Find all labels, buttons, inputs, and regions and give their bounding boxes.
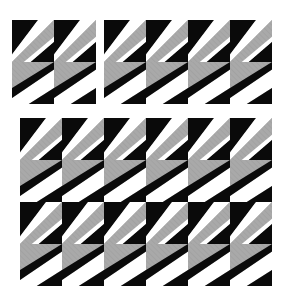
tile-variant-a bbox=[12, 20, 54, 62]
tile-variant-b bbox=[20, 160, 62, 202]
tile-variant-b bbox=[146, 244, 188, 286]
tile-variant-a bbox=[54, 20, 96, 62]
tile-variant-b bbox=[188, 62, 230, 104]
tile-variant-b bbox=[188, 244, 230, 286]
tile-variant-b bbox=[230, 62, 272, 104]
tile-variant-b bbox=[188, 160, 230, 202]
tile-variant-a bbox=[188, 202, 230, 244]
tile-variant-a bbox=[146, 118, 188, 160]
tile-variant-b bbox=[146, 62, 188, 104]
tile-variant-a bbox=[188, 118, 230, 160]
tile-variant-a bbox=[62, 118, 104, 160]
panel-bottom bbox=[20, 118, 272, 286]
pattern-canvas bbox=[0, 0, 286, 306]
tile-variant-a bbox=[230, 118, 272, 160]
tile-variant-a bbox=[104, 118, 146, 160]
tile-variant-b bbox=[230, 160, 272, 202]
tile-variant-b bbox=[230, 244, 272, 286]
tile-variant-b bbox=[62, 160, 104, 202]
tile-variant-a bbox=[146, 20, 188, 62]
tile-variant-a bbox=[230, 20, 272, 62]
panel-top-right bbox=[104, 20, 272, 104]
tile-variant-b bbox=[104, 244, 146, 286]
panel-top-left bbox=[12, 20, 96, 104]
tile-variant-a bbox=[20, 118, 62, 160]
tile-variant-b bbox=[20, 244, 62, 286]
tile-variant-a bbox=[230, 202, 272, 244]
tile-variant-b bbox=[104, 62, 146, 104]
tile-variant-a bbox=[104, 202, 146, 244]
tile-variant-b bbox=[104, 160, 146, 202]
tile-variant-a bbox=[62, 202, 104, 244]
tile-variant-a bbox=[188, 20, 230, 62]
tile-variant-a bbox=[20, 202, 62, 244]
tile-variant-b bbox=[12, 62, 54, 104]
tile-variant-a bbox=[104, 20, 146, 62]
tile-variant-b bbox=[62, 244, 104, 286]
tile-variant-b bbox=[146, 160, 188, 202]
tile-variant-a bbox=[146, 202, 188, 244]
tile-variant-b bbox=[54, 62, 96, 104]
